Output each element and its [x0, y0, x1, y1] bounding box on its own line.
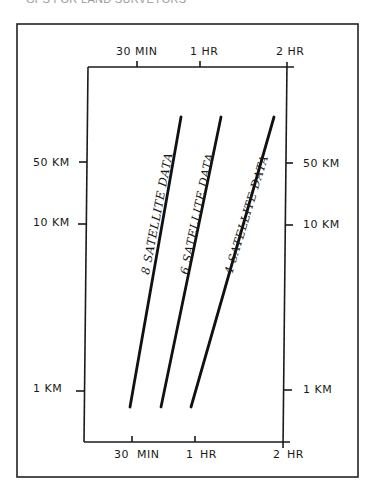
left-label-1km: 1 KM [33, 382, 62, 395]
label-6-satellite: 6 SATELLITE DATA [177, 151, 216, 275]
right-label-50km: 50 KM [303, 157, 340, 170]
bottom-label-2: 2 [273, 448, 281, 461]
chart-figure: 30 MIN 1 HR 2 HR 30 MIN 1 HR 2 HR 50 KM … [0, 0, 375, 498]
bottom-label-hr-2: HR [287, 448, 304, 461]
bottom-label-min: MIN [137, 448, 159, 461]
right-label-1km: 1 KM [303, 383, 332, 396]
label-4-satellite: 4 SATELLITE DATA [221, 153, 271, 277]
left-axis [84, 67, 88, 442]
right-label-10km: 10 KM [303, 218, 340, 231]
left-label-10km: 10 KM [33, 216, 70, 229]
top-label-2hr: 2 HR [276, 45, 304, 58]
bottom-label-30: 30 [114, 448, 129, 461]
top-label-1hr: 1 HR [190, 45, 218, 58]
left-label-50km: 50 KM [33, 156, 70, 169]
bottom-label-1: 1 [186, 448, 194, 461]
top-label-30min: 30 MIN [116, 45, 157, 58]
bottom-label-hr: HR [200, 448, 217, 461]
